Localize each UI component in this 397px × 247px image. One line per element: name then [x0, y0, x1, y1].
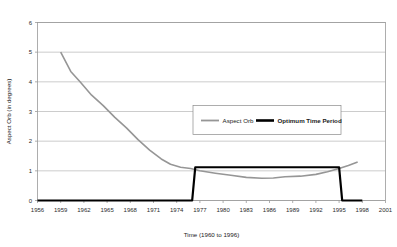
- x-tick-label-1980: 1980: [216, 207, 230, 213]
- x-tick-label-1986: 1986: [263, 207, 277, 213]
- x-tick-label-2001: 2001: [379, 207, 393, 213]
- x-axis-title: Time (1960 to 1996): [184, 231, 240, 238]
- x-tick-label-1959: 1959: [54, 207, 68, 213]
- x-tick-label-1971: 1971: [147, 207, 161, 213]
- y-axis-title: Aspect Orb (in degrees): [5, 79, 12, 145]
- x-tick-label-1983: 1983: [240, 207, 254, 213]
- x-tick-label-1968: 1968: [124, 207, 138, 213]
- x-tick-label-1956: 1956: [31, 207, 45, 213]
- legend-label-optimum-time-period: Optimum Time Period: [278, 117, 342, 124]
- legend-label-aspect-orb: Aspect Orb: [223, 117, 255, 124]
- x-tick-label-1965: 1965: [100, 207, 114, 213]
- x-tick-label-1992: 1992: [309, 207, 323, 213]
- chart-legend: Aspect Orb Optimum Time Period: [193, 106, 342, 135]
- x-tick-label-1974: 1974: [170, 207, 184, 213]
- chart-container: 0123456 19561959196219651968197119741977…: [0, 0, 397, 247]
- line-chart: 0123456 19561959196219651968197119741977…: [0, 0, 397, 247]
- x-tick-label-1977: 1977: [193, 207, 207, 213]
- x-tick-label-1989: 1989: [286, 207, 300, 213]
- x-tick-label-1962: 1962: [77, 207, 91, 213]
- x-tick-label-1995: 1995: [332, 207, 346, 213]
- x-tick-label-1998: 1998: [356, 207, 370, 213]
